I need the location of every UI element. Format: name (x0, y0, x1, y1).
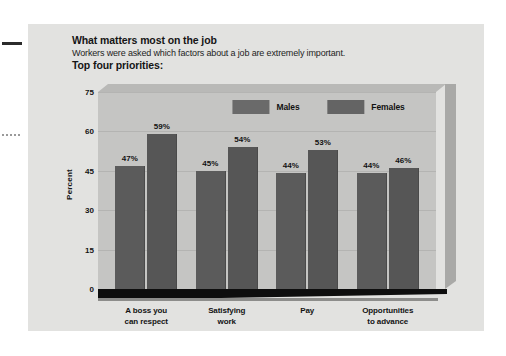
y-axis-ticks: 01530456075 (70, 84, 94, 284)
legend-swatch-icon (232, 100, 269, 114)
x-axis-label-2: Pay (267, 306, 348, 317)
bar-females-3[interactable]: 46% (389, 168, 419, 289)
x-axis-label-line: to advance (348, 317, 429, 328)
x-axis-label-line: Satisfying (187, 306, 268, 317)
y-tick-label: 60 (70, 127, 94, 136)
plot-back-wall: MalesFemales 47%59%45%54%44%53%44%46% (98, 92, 436, 289)
legend-label: Females (371, 102, 404, 112)
y-tick-label: 75 (70, 88, 94, 97)
page-edge-mark-top (2, 42, 22, 45)
bar-males-1[interactable]: 45% (196, 171, 226, 289)
chart-heading-block: What matters most on the job Workers wer… (72, 34, 452, 72)
legend-item-males[interactable]: Males (232, 100, 299, 114)
y-tick-label: 30 (70, 206, 94, 215)
bar-chart: Percent 01530456075 MalesFemales 47%59%4… (72, 84, 464, 327)
bar-males-0[interactable]: 47% (115, 166, 145, 289)
bar-value-label: 54% (234, 135, 250, 144)
legend-swatch-icon (327, 100, 364, 114)
y-tick-label: 15 (70, 245, 94, 254)
bar-value-label: 47% (122, 154, 138, 163)
plot-area-3d: MalesFemales 47%59%45%54%44%53%44%46% (98, 84, 456, 297)
bar-males-3[interactable]: 44% (357, 173, 387, 289)
y-tick-label: 0 (70, 285, 94, 294)
chart-title: What matters most on the job (72, 34, 452, 47)
chart-legend: MalesFemales (98, 92, 436, 122)
x-axis-labels: A boss youcan respectSatisfyingworkPayOp… (98, 306, 446, 332)
bar-value-label: 46% (395, 156, 411, 165)
page-edge-mark-dotted (2, 134, 20, 136)
bar-value-label: 45% (202, 159, 218, 168)
bar-females-1[interactable]: 54% (228, 147, 258, 289)
bar-value-label: 44% (283, 161, 299, 170)
bar-females-0[interactable]: 59% (147, 134, 177, 289)
bar-value-label: 59% (154, 122, 170, 131)
x-axis-label-0: A boss youcan respect (106, 306, 187, 327)
legend-label: Males (276, 102, 299, 112)
plot-right-face (445, 84, 456, 289)
gridline (98, 131, 436, 132)
x-axis-label-line: Opportunities (348, 306, 429, 317)
x-axis-label-line: A boss you (106, 306, 187, 317)
x-axis-label-line: can respect (106, 317, 187, 328)
chart-card: What matters most on the job Workers wer… (28, 24, 484, 331)
chart-kicker: Top four priorities: (72, 59, 452, 72)
x-axis-label-1: Satisfyingwork (187, 306, 268, 327)
plot-floor-shadow (98, 298, 438, 301)
gridline (98, 92, 436, 93)
plot-top-face (98, 84, 446, 92)
x-axis-label-line: work (187, 317, 268, 328)
chart-subtitle: Workers were asked which factors about a… (72, 47, 452, 59)
legend-item-females[interactable]: Females (327, 100, 404, 114)
bar-males-2[interactable]: 44% (276, 173, 306, 289)
bar-females-2[interactable]: 53% (308, 150, 338, 289)
bar-value-label: 44% (363, 161, 379, 170)
bar-value-label: 53% (315, 138, 331, 147)
x-axis-label-line: Pay (267, 306, 348, 317)
x-axis-label-3: Opportunitiesto advance (348, 306, 429, 327)
y-tick-label: 45 (70, 166, 94, 175)
